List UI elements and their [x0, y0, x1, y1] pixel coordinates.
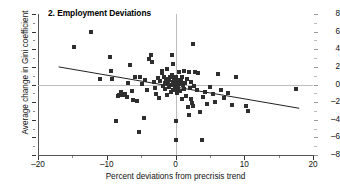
scatter-point	[170, 53, 174, 57]
right-tick	[314, 129, 317, 130]
scatter-point	[137, 130, 141, 134]
scatter-point	[128, 63, 132, 67]
scatter-point	[125, 95, 129, 99]
scatter-point	[198, 110, 202, 114]
scatter-point	[222, 96, 226, 100]
scatter-point	[184, 94, 188, 98]
y-tick-major	[32, 67, 36, 68]
y-tick-major	[32, 155, 36, 156]
y-tick-major	[32, 120, 36, 121]
scatter-point	[216, 72, 220, 76]
scatter-point	[185, 77, 189, 81]
right-tick	[314, 32, 318, 33]
scatter-point	[187, 113, 191, 117]
scatter-point	[135, 99, 139, 103]
scatter-point	[177, 70, 181, 74]
y-tick-minor	[33, 23, 35, 24]
scatter-point	[219, 88, 223, 92]
scatter-point	[191, 42, 195, 46]
right-tick	[314, 67, 318, 68]
scatter-point	[89, 30, 93, 34]
scatter-point	[98, 77, 102, 81]
right-tick	[314, 76, 317, 77]
scatter-point	[205, 102, 209, 106]
scatter-point	[208, 85, 212, 89]
y-tick-major	[32, 14, 36, 15]
y-tick-minor	[33, 111, 35, 112]
scatter-point	[133, 75, 137, 79]
chart-figure: 2. Employment Deviations Average change …	[0, 0, 340, 189]
right-tick	[314, 120, 318, 121]
scatter-point	[294, 87, 298, 91]
scatter-point	[213, 100, 217, 104]
x-axis-label: Percent deviations from precrisis trend	[38, 172, 313, 181]
right-tick	[314, 102, 318, 103]
scatter-point	[201, 95, 205, 99]
y-tick-major	[32, 137, 36, 138]
scatter-point	[153, 86, 157, 90]
scatter-point	[165, 67, 169, 71]
x-tick-minor	[141, 156, 142, 158]
right-tick	[314, 49, 318, 50]
plot-area	[38, 14, 313, 155]
scatter-point	[109, 69, 113, 73]
scatter-point	[246, 109, 250, 113]
scatter-point	[196, 71, 200, 75]
scatter-point	[165, 93, 169, 97]
y-tick-major	[32, 32, 36, 33]
x-tick-label: 10	[224, 160, 264, 169]
scatter-point	[195, 88, 199, 92]
scatter-point	[211, 92, 215, 96]
scatter-point	[108, 55, 112, 59]
scatter-point	[182, 69, 186, 73]
y-tick-minor	[33, 40, 35, 41]
right-tick	[314, 137, 318, 138]
scatter-point	[149, 53, 153, 57]
scatter-point	[200, 138, 204, 142]
y-axis-label: Average change in Gini coefficient	[21, 0, 30, 153]
scatter-point	[142, 116, 146, 120]
y-tick-minor	[33, 58, 35, 59]
x-tick-label: 0	[156, 160, 196, 169]
scatter-point	[191, 104, 195, 108]
scatter-point	[174, 138, 178, 142]
x-tick-label: –20	[18, 160, 58, 169]
scatter-point	[145, 88, 149, 92]
scatter-point	[171, 62, 175, 66]
x-tick-minor	[72, 156, 73, 158]
scatter-point	[183, 81, 187, 85]
right-tick	[314, 40, 317, 41]
scatter-point	[186, 105, 190, 109]
x-tick-minor	[210, 156, 211, 158]
scatter-point	[182, 87, 186, 91]
scatter-point	[189, 80, 193, 84]
y-tick-major	[32, 102, 36, 103]
y-tick-minor	[33, 93, 35, 94]
scatter-point	[152, 80, 156, 84]
scatter-point	[226, 91, 230, 95]
scatter-point	[138, 75, 142, 79]
right-tick	[314, 155, 318, 156]
right-tick	[314, 58, 317, 59]
scatter-point	[230, 103, 234, 107]
y-tick-major	[32, 85, 36, 86]
y-tick-minor	[33, 146, 35, 147]
x-tick-label: –10	[87, 160, 127, 169]
y-tick-minor	[33, 76, 35, 77]
scatter-point	[157, 96, 161, 100]
scatter-point	[140, 82, 144, 86]
scatter-point	[126, 81, 130, 85]
y-tick-minor	[33, 129, 35, 130]
right-tick	[314, 111, 317, 112]
scatter-point	[110, 77, 114, 81]
right-tick	[314, 93, 317, 94]
scatter-point	[114, 119, 118, 123]
right-tick	[314, 23, 317, 24]
scatter-point	[174, 119, 178, 123]
scatter-point	[244, 104, 248, 108]
scatter-point	[150, 60, 154, 64]
right-tick	[314, 146, 317, 147]
scatter-point	[187, 70, 191, 74]
right-tick	[314, 85, 318, 86]
x-tick-label: 20	[293, 160, 333, 169]
